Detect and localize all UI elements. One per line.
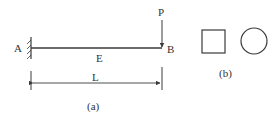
square-section-icon [202, 30, 225, 53]
diagram: A E P B L (a) (b) [0, 0, 278, 120]
figure-a: A E P B L (a) [14, 6, 174, 113]
circle-section-icon [241, 28, 267, 54]
tip-label-b: B [167, 43, 174, 55]
load-label: P [158, 6, 164, 18]
length-label: L [92, 71, 99, 83]
caption-b: (b) [219, 67, 232, 80]
modulus-label: E [96, 52, 103, 64]
figure-b: (b) [202, 28, 267, 80]
support-label-a: A [14, 42, 22, 54]
fixed-support-icon [27, 37, 31, 59]
caption-a: (a) [87, 100, 100, 113]
